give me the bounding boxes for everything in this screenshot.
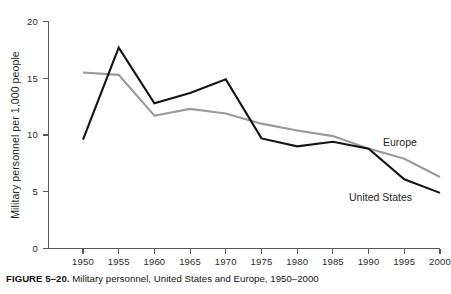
y-tick-label-5: 5 (33, 186, 38, 197)
y-axis-ticks (43, 22, 49, 249)
x-tick-label-1965: 1965 (179, 256, 201, 267)
series-line-united-states (83, 48, 440, 193)
x-tick-label-1955: 1955 (108, 256, 130, 267)
x-tick-label-1975: 1975 (251, 256, 273, 267)
y-tick-label-20: 20 (27, 16, 38, 27)
x-tick-label-2000: 2000 (429, 256, 451, 267)
figure-caption-text: Military personnel, United States and Eu… (72, 273, 318, 284)
x-tick-label-1995: 1995 (393, 256, 415, 267)
figure-caption-number: FIGURE 5–20. (6, 273, 70, 284)
x-axis-ticks (83, 249, 440, 255)
x-tick-label-1985: 1985 (322, 256, 344, 267)
x-tick-label-1960: 1960 (143, 256, 165, 267)
figure-caption: FIGURE 5–20. Military personnel, United … (6, 272, 446, 285)
y-tick-label-0: 0 (33, 243, 38, 254)
chart-plot-area: 0 5 10 15 20 1950 (0, 0, 451, 268)
x-tick-label-1980: 1980 (286, 256, 308, 267)
y-axis-tick-labels: 0 5 10 15 20 (27, 16, 38, 254)
y-tick-label-10: 10 (27, 129, 38, 140)
series-label-europe: Europe (383, 136, 417, 148)
x-axis-tick-labels: 1950 1955 1960 1965 1970 1975 1980 1985 … (72, 256, 451, 267)
figure-container: 0 5 10 15 20 1950 (0, 0, 451, 294)
series-label-united-states: United States (349, 191, 412, 203)
y-tick-label-15: 15 (27, 73, 38, 84)
x-tick-label-1950: 1950 (72, 256, 94, 267)
x-tick-label-1970: 1970 (215, 256, 237, 267)
line-chart: 0 5 10 15 20 1950 (0, 0, 451, 268)
y-axis-line (49, 21, 441, 249)
series-line-europe (83, 73, 440, 177)
y-axis-label: Military personnel per 1,000 people (9, 51, 21, 219)
x-tick-label-1990: 1990 (358, 256, 380, 267)
